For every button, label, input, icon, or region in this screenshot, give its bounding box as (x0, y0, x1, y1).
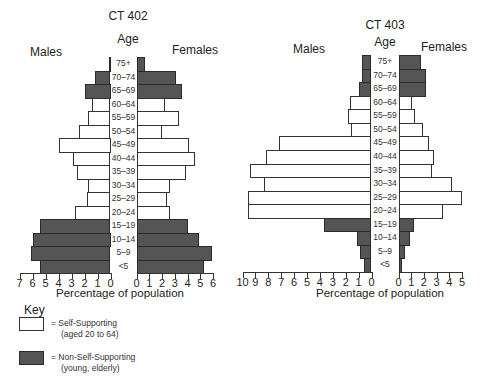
bar-females-3 (137, 98, 165, 113)
age-group-label: 10–14 (372, 231, 398, 245)
age-group-label: 25–29 (111, 192, 137, 206)
x-axis-title: Percentage of population (40, 287, 200, 299)
bar-females-5 (399, 123, 423, 138)
bar-females-13 (399, 231, 410, 246)
bar-females-12 (399, 218, 414, 233)
bar-females-13 (137, 233, 199, 248)
bar-males-5 (351, 123, 372, 138)
age-group-label: 50–54 (372, 123, 398, 137)
age-group-label: 60–64 (111, 98, 137, 112)
bar-females-7 (137, 152, 196, 167)
bar-males-10 (248, 191, 372, 206)
bar-females-11 (399, 204, 443, 219)
age-group-label: 5–9 (372, 245, 398, 259)
bar-males-10 (87, 192, 110, 207)
bar-males-3 (350, 96, 372, 111)
bar-males-3 (92, 98, 110, 113)
chart-title: CT 402 (88, 9, 168, 23)
bar-males-13 (357, 231, 371, 246)
age-group-label: 70–74 (372, 69, 398, 83)
bar-males-2 (359, 82, 372, 97)
bar-males-6 (279, 136, 372, 151)
age-group-label: 75+ (372, 55, 398, 69)
tick-label: 8 (261, 276, 275, 288)
bar-males-14 (31, 246, 110, 261)
legend-line: = Self-Supporting (51, 318, 119, 329)
legend-label-non-self-supporting: = Non-Self-Supporting (young, elderly) (51, 352, 135, 374)
legend-label-self-supporting: = Self-Supporting (aged 20 to 64) (51, 318, 119, 340)
age-group-label: 55–59 (372, 109, 398, 123)
age-group-label: 65–69 (372, 82, 398, 96)
tick-label: 9 (248, 276, 262, 288)
bar-females-14 (137, 246, 212, 261)
bar-males-8 (250, 164, 371, 179)
bar-females-5 (137, 125, 163, 140)
bar-males-0 (362, 55, 371, 70)
age-group-label: 75+ (111, 57, 137, 71)
legend-line: (aged 20 to 64) (51, 329, 119, 340)
males-label: Males (30, 45, 62, 59)
age-group-label: 65–69 (111, 84, 137, 98)
age-group-label: 10–14 (111, 233, 137, 247)
age-group-label: 5–9 (111, 246, 137, 260)
legend-swatch-non-self-supporting (19, 351, 44, 365)
age-group-label: 40–44 (111, 152, 137, 166)
bar-males-13 (33, 233, 111, 248)
bar-females-2 (137, 84, 183, 99)
age-group-label: <5 (372, 258, 398, 272)
bar-males-11 (75, 206, 110, 221)
tick-label: 6 (287, 276, 301, 288)
age-axis-title: Age (345, 35, 425, 49)
bar-males-12 (324, 218, 372, 233)
age-group-label: 15–19 (111, 219, 137, 233)
bar-females-15 (137, 260, 205, 275)
bar-females-6 (399, 136, 429, 151)
bar-males-7 (266, 150, 372, 165)
age-group-label: 30–34 (372, 177, 398, 191)
bar-males-11 (248, 204, 372, 219)
bar-females-10 (137, 192, 168, 207)
tick-label: 6 (206, 277, 220, 289)
x-axis-title: Percentage of population (300, 287, 460, 299)
bar-females-4 (399, 109, 416, 124)
age-group-label: 20–24 (111, 206, 137, 220)
age-group-label: 55–59 (111, 111, 137, 125)
bar-males-9 (264, 177, 371, 192)
legend-swatch-self-supporting (19, 317, 44, 331)
bar-males-15 (364, 258, 372, 273)
legend-line: (young, elderly) (51, 363, 135, 374)
bar-females-9 (137, 179, 170, 194)
age-group-label: 40–44 (372, 150, 398, 164)
age-group-label: 15–19 (372, 218, 398, 232)
age-group-label: <5 (111, 260, 137, 274)
bar-females-1 (137, 71, 177, 86)
age-group-label: 35–39 (111, 165, 137, 179)
age-group-label: 50–54 (111, 125, 137, 139)
bar-females-8 (399, 164, 432, 179)
bar-males-5 (79, 125, 110, 140)
bar-females-14 (399, 245, 405, 260)
bar-females-0 (399, 55, 422, 70)
bar-females-3 (399, 96, 413, 111)
bar-females-10 (399, 191, 463, 206)
bar-males-1 (95, 71, 111, 86)
tick-label: 10 (236, 276, 250, 288)
females-label: Females (172, 43, 218, 57)
tick-label: 7 (274, 276, 288, 288)
age-group-label: 45–49 (111, 138, 137, 152)
bar-males-2 (85, 84, 111, 99)
bar-females-12 (137, 219, 188, 234)
bar-females-6 (137, 138, 189, 153)
bar-males-9 (88, 179, 110, 194)
bar-females-2 (399, 82, 427, 97)
bar-males-14 (360, 245, 372, 260)
right-axis-line (399, 272, 463, 273)
legend-title: Key (24, 303, 45, 317)
legend-line: = Non-Self-Supporting (51, 352, 135, 363)
age-group-label: 20–24 (372, 204, 398, 218)
bar-males-15 (40, 260, 110, 275)
age-group-label: 60–64 (372, 96, 398, 110)
bar-females-0 (137, 57, 146, 72)
age-group-label: 30–34 (111, 179, 137, 193)
bar-females-8 (137, 165, 187, 180)
